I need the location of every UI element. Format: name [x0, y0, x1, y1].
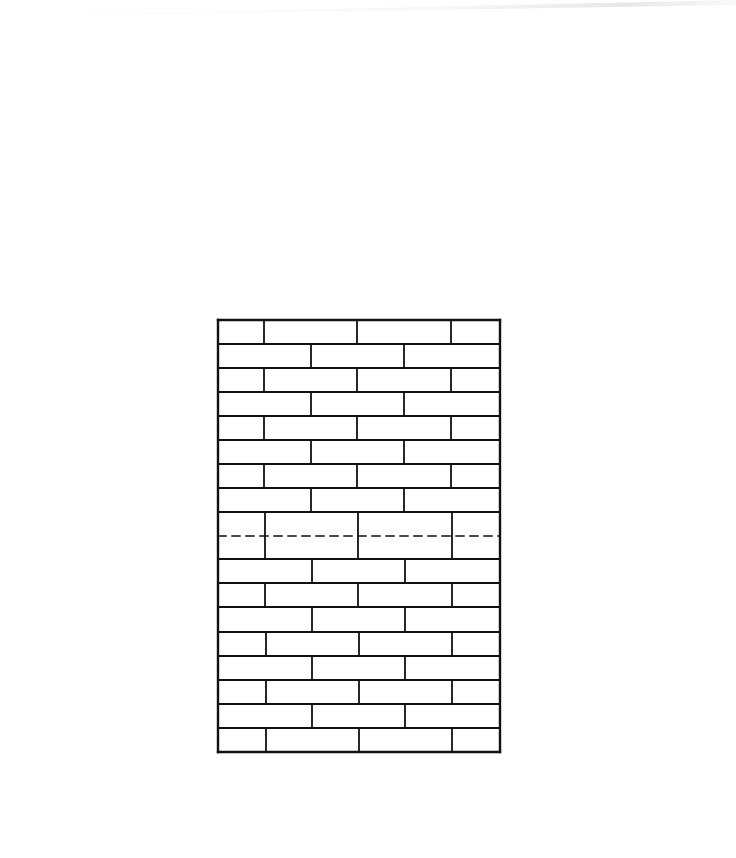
brick-wall-diagram [0, 0, 736, 858]
